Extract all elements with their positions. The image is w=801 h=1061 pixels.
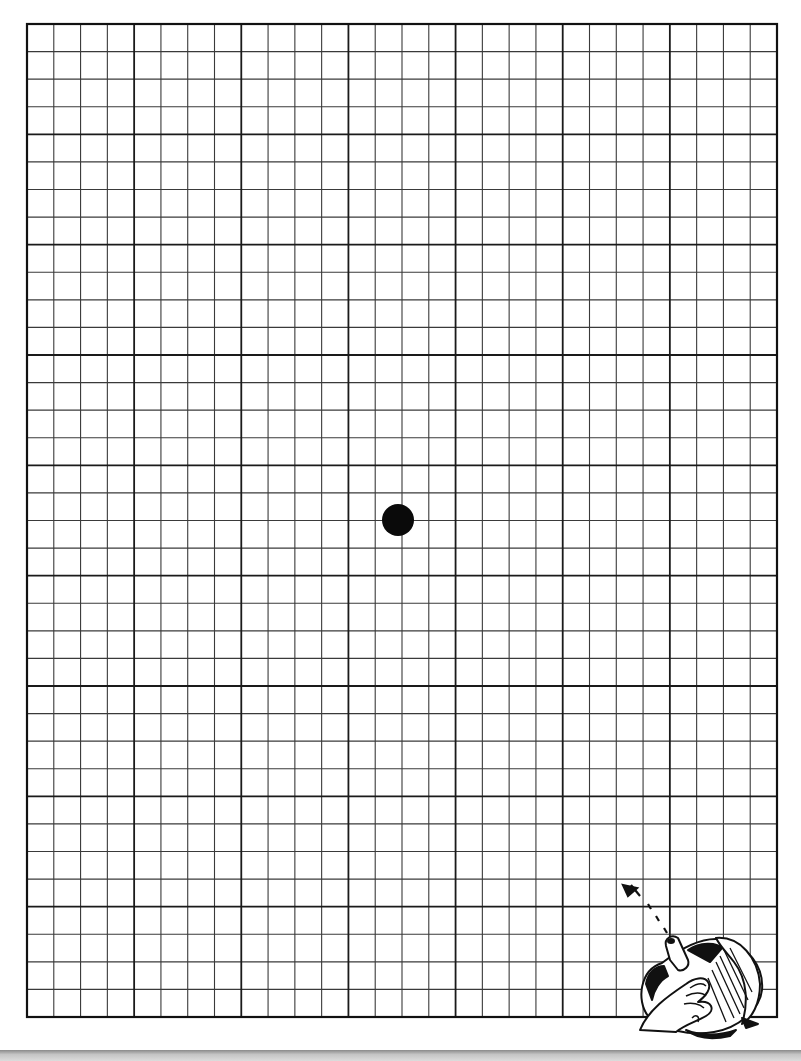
focus-dot xyxy=(382,504,414,536)
hands-holding-grid-corner-icon xyxy=(640,936,762,1038)
dashed-arrow-up-left-icon xyxy=(623,885,667,933)
bottom-bar xyxy=(0,1050,801,1061)
hands-illustration xyxy=(600,870,780,1040)
